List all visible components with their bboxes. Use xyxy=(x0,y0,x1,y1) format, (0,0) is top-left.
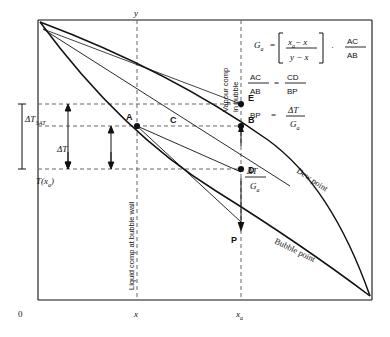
eq2-numerator-2: CD xyxy=(287,73,299,82)
eq3-lhs: BP xyxy=(250,111,261,120)
figure-caption xyxy=(0,0,390,7)
equation-bp: BP = ΔT Ga xyxy=(250,105,305,131)
eq1-denominator: y − x xyxy=(289,52,309,62)
equation-ac-ab: AC AB = CD BP xyxy=(248,73,306,96)
eq1-equals: = xyxy=(270,40,275,50)
point-label-C-visible: C xyxy=(170,115,177,125)
liquid-comp-label: Liquid comp at bubble wall xyxy=(127,201,136,290)
eq2-denominator-2: BP xyxy=(287,87,298,96)
ray-to-E xyxy=(43,29,241,104)
temperature-label: T(xa) xyxy=(36,176,54,188)
phase-diagram-figure: A B C D E P C Dew point Bubble point Vap… xyxy=(0,0,390,337)
eq3-equals: = xyxy=(271,110,276,120)
marker-A xyxy=(134,123,140,129)
point-label-P: P xyxy=(231,235,237,245)
in-bubble-label: in bubble xyxy=(231,82,240,112)
eq3-denominator: Ga xyxy=(290,119,300,131)
dew-point-label: Dew point xyxy=(295,165,331,194)
eq1-numerator: xa− x xyxy=(287,37,307,49)
eq2-numerator: AC xyxy=(250,73,261,82)
eq4-numerator: ΔT xyxy=(246,166,258,176)
bubble-point-label: Bubble point xyxy=(273,236,318,265)
line-A-P xyxy=(137,126,241,222)
eq1-lhs: Ga xyxy=(254,40,264,52)
y-axis-label: y xyxy=(133,8,138,18)
equation-ga: Ga = xa− x y − x · AC AB xyxy=(254,33,366,63)
marker-C xyxy=(239,124,243,128)
diagram-canvas: A B C D E P C Dew point Bubble point Vap… xyxy=(0,0,390,337)
point-label-A: A xyxy=(126,112,133,122)
eq1-tail-denominator: AB xyxy=(347,51,358,60)
eq4-denominator: Ga xyxy=(250,181,260,193)
eq2-denominator: AB xyxy=(250,87,261,96)
delta-t-label: ΔT xyxy=(56,144,68,154)
vapour-comp-label: Vapour comp xyxy=(221,68,230,112)
eq3-numerator: ΔT xyxy=(287,105,299,115)
eq1-tail-numerator: AC xyxy=(347,37,358,46)
x-tick-label: x xyxy=(133,309,138,319)
equation-delta-t-over-ga: ΔT Ga xyxy=(245,166,266,193)
delta-t-sat-label: ΔTSAT xyxy=(24,114,46,126)
plot-frame xyxy=(38,20,372,300)
eq2-equals: = xyxy=(274,78,279,88)
line-A-B-extended xyxy=(43,29,290,186)
origin-label: 0 xyxy=(18,309,23,319)
line-A-D xyxy=(137,126,241,172)
xa-tick-label: xa xyxy=(235,309,243,321)
temperature-arrows xyxy=(65,152,111,169)
marker-D xyxy=(238,166,244,172)
eq1-dot: · xyxy=(331,42,334,52)
